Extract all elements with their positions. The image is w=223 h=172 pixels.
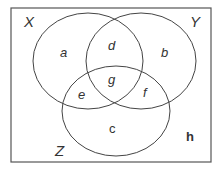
set-label-z: Z — [54, 142, 65, 159]
set-label-y: Y — [190, 13, 201, 30]
region-h: h — [186, 129, 194, 144]
region-d: d — [108, 38, 116, 53]
venn-diagram: X Y Z a d b g e f c h — [0, 0, 223, 172]
region-c: c — [109, 121, 116, 136]
circle-z — [62, 66, 170, 156]
region-g: g — [108, 72, 116, 87]
region-a: a — [60, 45, 67, 60]
set-label-x: X — [23, 13, 35, 30]
region-b: b — [161, 45, 168, 60]
circle-x — [33, 13, 143, 109]
region-e: e — [78, 87, 85, 102]
region-f: f — [143, 85, 148, 100]
circle-y — [86, 13, 196, 109]
